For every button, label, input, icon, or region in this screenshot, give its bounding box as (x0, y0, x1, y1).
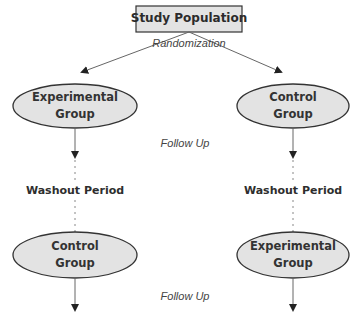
left-top-node-label: Experimental Group (32, 89, 118, 123)
right-bottom-node-line2: Group (250, 255, 336, 272)
right-washout-label: Washout Period (244, 184, 342, 197)
follow-up-label-top: Follow Up (161, 137, 210, 149)
left-top-node-line1: Experimental (32, 89, 118, 106)
right-bottom-node-line1: Experimental (250, 238, 336, 255)
randomization-label: Randomization (152, 37, 225, 49)
right-bottom-node-label: Experimental Group (250, 238, 336, 272)
left-top-node-line2: Group (32, 106, 118, 123)
left-bottom-node-line1: Control (51, 238, 99, 255)
follow-up-label-bottom: Follow Up (161, 290, 210, 302)
study-population-label: Study Population (131, 11, 248, 25)
right-top-node-line1: Control (269, 89, 317, 106)
left-bottom-node-line2: Group (51, 255, 99, 272)
left-bottom-node-label: Control Group (51, 238, 99, 272)
right-top-node-line2: Group (269, 106, 317, 123)
left-washout-label: Washout Period (26, 184, 124, 197)
right-top-node-label: Control Group (269, 89, 317, 123)
